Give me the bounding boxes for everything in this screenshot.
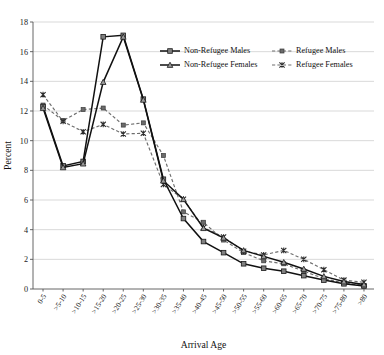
x-tick-label: >65-70: [290, 292, 309, 315]
y-tick-label: 8: [24, 166, 28, 175]
x-tick-label: >75-80: [330, 292, 349, 315]
x-tick-label: >35-40: [170, 292, 189, 315]
data-point-marker: [168, 49, 173, 54]
y-tick-label: 16: [20, 48, 28, 57]
data-point-marker: [141, 121, 145, 125]
x-tick-label: >15-20: [89, 292, 108, 315]
legend-label: Refugee Females: [296, 60, 353, 69]
x-tick-label: 0-5: [35, 292, 48, 305]
x-axis-title: Arrival Age: [181, 339, 227, 350]
data-point-marker: [281, 269, 286, 274]
legend-label: Refugee Males: [296, 46, 345, 55]
y-axis-title: Percent: [2, 141, 13, 170]
x-tick-label: >60-65: [270, 292, 289, 315]
data-point-marker: [40, 92, 45, 98]
legend-label: Non-Refugee Males: [184, 46, 250, 55]
x-tick-label: >45-50: [210, 292, 229, 315]
data-point-marker: [262, 259, 266, 263]
legend-entry-non-refugee-females: Non-Refugee Females: [160, 60, 257, 69]
legend-entry-non-refugee-males: Non-Refugee Males: [160, 46, 250, 55]
series-line: [43, 37, 364, 285]
line-chart: 0246810121416180-5>5-10>10-15>15-20>20-2…: [0, 0, 384, 355]
y-tick-label: 0: [24, 285, 28, 294]
data-point-marker: [181, 216, 186, 221]
data-point-marker: [241, 261, 246, 266]
data-point-marker: [81, 108, 85, 112]
x-tick-label: >10-15: [69, 292, 88, 315]
x-tick-label: >80: [355, 292, 369, 307]
series-line: [43, 95, 364, 283]
data-point-marker: [141, 130, 146, 136]
data-point-marker: [181, 210, 185, 214]
data-point-marker: [202, 220, 206, 224]
legend-entry-refugee-females: Refugee Females: [272, 60, 353, 69]
data-point-marker: [261, 266, 266, 271]
data-point-marker: [321, 267, 326, 273]
data-point-marker: [121, 131, 126, 137]
x-tick-label: >55-60: [250, 292, 269, 315]
y-tick-label: 18: [20, 18, 28, 27]
legend-entry-refugee-males: Refugee Males: [272, 46, 345, 55]
x-tick-label: >70-75: [310, 292, 329, 315]
data-point-marker: [101, 121, 106, 127]
y-tick-label: 10: [20, 137, 28, 146]
data-point-marker: [221, 250, 226, 255]
series-line: [43, 35, 364, 286]
x-tick-label: >40-45: [190, 292, 209, 315]
y-tick-label: 6: [24, 196, 28, 205]
y-tick-label: 14: [20, 77, 28, 86]
data-point-marker: [161, 154, 165, 158]
legend-label: Non-Refugee Females: [184, 60, 257, 69]
y-tick-label: 12: [20, 107, 28, 116]
series-non-refugee-females: [40, 34, 367, 287]
x-tick-label: >5-10: [51, 292, 68, 312]
data-point-marker: [101, 106, 105, 110]
data-point-marker: [301, 273, 306, 278]
x-tick-label: >50-55: [230, 292, 249, 315]
data-point-marker: [100, 79, 106, 84]
x-tick-label: >30-35: [150, 292, 169, 315]
data-point-marker: [121, 123, 125, 127]
x-tick-label: >20-25: [109, 292, 128, 315]
data-point-marker: [101, 35, 106, 40]
chart-canvas: 0246810121416180-5>5-10>10-15>15-20>20-2…: [0, 0, 384, 355]
data-point-marker: [280, 49, 284, 53]
data-point-marker: [81, 129, 86, 135]
x-tick-label: >25-30: [130, 292, 149, 315]
y-tick-label: 4: [24, 226, 28, 235]
y-tick-label: 2: [24, 255, 28, 264]
data-point-marker: [201, 239, 206, 244]
series-non-refugee-males: [41, 33, 367, 288]
